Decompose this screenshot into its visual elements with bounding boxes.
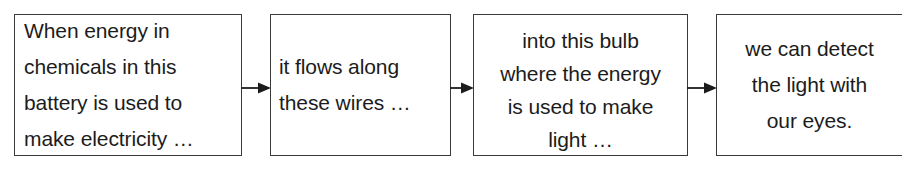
flow-box-3: into this bulb where the energy is used … <box>473 14 688 156</box>
flow-box-1-line-3: battery is used to <box>24 85 232 121</box>
flow-box-1: When energy in chemicals in this battery… <box>14 14 242 156</box>
flow-box-4-line-2: the light with <box>723 67 896 103</box>
flow-box-3-line-4: light … <box>479 123 682 156</box>
flow-box-2-line-2: these wires … <box>279 85 442 121</box>
flow-box-3-line-1: into this bulb <box>479 24 682 57</box>
flow-box-4-line-1: we can detect <box>723 31 896 67</box>
flow-box-1-line-2: chemicals in this <box>24 49 232 85</box>
flow-box-4: we can detect the light with our eyes. <box>716 14 902 156</box>
flow-box-4-line-3: our eyes. <box>723 103 896 139</box>
flow-arrow-right-icon-1 <box>241 78 271 98</box>
flow-arrow-right-icon-3 <box>687 78 717 98</box>
flow-box-3-line-3: is used to make <box>479 90 682 123</box>
flow-box-2-line-1: it flows along <box>279 49 442 85</box>
flow-box-1-line-1: When energy in <box>24 14 232 49</box>
flow-box-2: it flows along these wires … <box>270 14 451 156</box>
flow-arrow-right-icon-2 <box>450 78 474 98</box>
flow-box-3-line-2: where the energy <box>479 57 682 90</box>
flow-box-1-line-4: make electricity … <box>24 121 232 156</box>
